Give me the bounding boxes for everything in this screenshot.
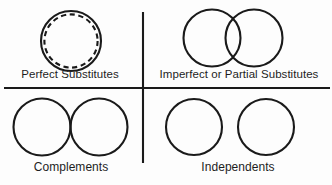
quadrant-label-independents: Independents xyxy=(148,161,328,173)
complements-shape-group xyxy=(14,99,128,156)
goods-relationship-quadrant-diagram: Perfect Substitutes Imperfect or Partial… xyxy=(0,0,332,185)
independents-shape-group xyxy=(166,99,294,155)
quadrant-label-perfect-substitutes: Perfect Substitutes xyxy=(0,69,140,81)
perfect-substitutes-inner-dashed-circle xyxy=(44,14,97,67)
perfect-substitutes-shape-group xyxy=(41,11,101,71)
imperfect-substitutes-right-circle xyxy=(226,10,283,67)
imperfect-substitutes-shape-group xyxy=(184,10,283,67)
independents-right-circle xyxy=(238,99,294,155)
quadrant-label-complements: Complements xyxy=(0,161,142,173)
imperfect-substitutes-left-circle xyxy=(184,10,241,67)
quadrant-label-imperfect-or-partial-substitutes: Imperfect or Partial Substitutes xyxy=(146,69,332,81)
complements-right-circle xyxy=(71,99,128,156)
complements-left-circle xyxy=(14,99,71,156)
perfect-substitutes-outer-circle xyxy=(41,11,101,71)
diagram-canvas xyxy=(0,0,332,185)
quadrant-dividers xyxy=(4,12,330,163)
independents-left-circle xyxy=(166,99,222,155)
